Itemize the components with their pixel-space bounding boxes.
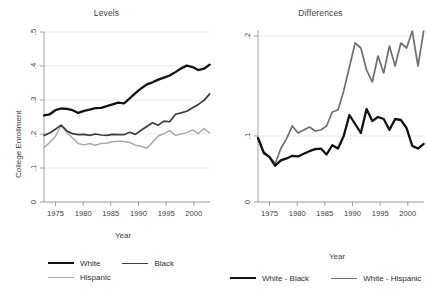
legend-swatch-white-icon <box>48 262 74 264</box>
svg-text:2000: 2000 <box>399 209 416 218</box>
svg-text:1995: 1995 <box>372 209 389 218</box>
svg-text:.5: .5 <box>29 29 38 35</box>
svg-text:1975: 1975 <box>47 209 64 218</box>
svg-text:0: 0 <box>29 200 38 204</box>
legend-row-2: Hispanic <box>48 270 174 284</box>
legend-swatch-black-icon <box>122 263 148 264</box>
levels-gridlines <box>44 32 210 202</box>
svg-text:.4: .4 <box>29 63 38 69</box>
legend-swatch-hispanic-icon <box>48 277 74 278</box>
figure-container: Levels <box>0 0 427 295</box>
legend-label-white-minus-black: White - Black <box>262 274 309 283</box>
differences-x-tick-labels: 1975 1980 1985 1990 1995 2000 <box>261 209 416 218</box>
svg-text:.2: .2 <box>243 33 252 39</box>
svg-text:2000: 2000 <box>185 209 202 218</box>
legend-row-1: White Black <box>48 256 174 270</box>
legend-entry-hispanic[interactable]: Hispanic <box>48 273 111 282</box>
legend-swatch-white-minus-black-icon <box>230 277 256 279</box>
svg-text:1990: 1990 <box>344 209 361 218</box>
svg-text:.1: .1 <box>29 165 38 171</box>
svg-text:1990: 1990 <box>130 209 147 218</box>
levels-y-ticks <box>40 32 44 202</box>
svg-text:1985: 1985 <box>316 209 333 218</box>
svg-text:1995: 1995 <box>158 209 175 218</box>
differences-plot-svg: 0 .1 .2 1975 1980 1985 1990 1995 2000 <box>214 0 427 252</box>
levels-plot-svg: 0 .1 .2 .3 .4 .5 1975 1980 1985 <box>0 0 213 252</box>
levels-y-tick-labels: 0 .1 .2 .3 .4 .5 <box>29 29 38 204</box>
svg-text:1980: 1980 <box>75 209 92 218</box>
levels-y-axis-label: College Enrollment <box>14 110 23 178</box>
legend-entry-black[interactable]: Black <box>122 259 174 268</box>
series-line-white-minus-black <box>258 109 424 166</box>
svg-text:.1: .1 <box>243 133 252 139</box>
series-line-white <box>44 65 210 116</box>
svg-text:1975: 1975 <box>261 209 278 218</box>
svg-text:1980: 1980 <box>289 209 306 218</box>
levels-x-tick-labels: 1975 1980 1985 1990 1995 2000 <box>47 209 202 218</box>
panel-levels: Levels <box>0 0 213 252</box>
differences-y-ticks <box>254 36 258 202</box>
svg-text:.3: .3 <box>29 97 38 103</box>
levels-x-ticks <box>56 202 194 206</box>
differences-y-tick-labels: 0 .1 .2 <box>243 33 252 204</box>
differences-x-ticks <box>270 202 408 206</box>
legend-entry-white-minus-black[interactable]: White - Black <box>230 274 309 283</box>
svg-text:1985: 1985 <box>102 209 119 218</box>
legend-entry-white[interactable]: White <box>48 259 100 268</box>
legend-label-hispanic: Hispanic <box>80 273 111 282</box>
series-line-hispanic <box>44 126 210 149</box>
differences-x-axis-label: Year <box>257 252 417 261</box>
legend-label-white-minus-hispanic: White - Hispanic <box>363 274 421 283</box>
legend-differences: White - Black White - Hispanic <box>230 271 421 285</box>
panel-differences: Differences 0 .1 .2 <box>214 0 427 252</box>
legend-label-black: Black <box>154 259 174 268</box>
legend-entry-white-minus-hispanic[interactable]: White - Hispanic <box>331 274 421 283</box>
legend-label-white: White <box>80 259 100 268</box>
legend-swatch-white-minus-hispanic-icon <box>331 278 357 279</box>
legend-levels: White Black Hispanic <box>48 256 174 284</box>
levels-x-axis-label: Year <box>43 231 203 240</box>
legend-row-1: White - Black White - Hispanic <box>230 271 421 285</box>
svg-text:.2: .2 <box>29 131 38 137</box>
svg-text:0: 0 <box>243 200 252 204</box>
